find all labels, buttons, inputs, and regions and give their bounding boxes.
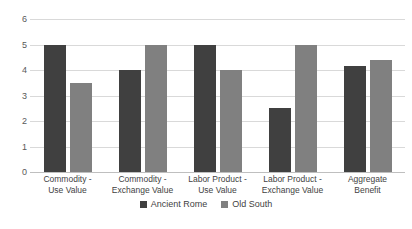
- bar: [145, 45, 167, 173]
- y-tick-label: 6: [3, 15, 27, 24]
- x-tick-label: AggregateBenefit: [330, 174, 405, 195]
- legend-label: Old South: [232, 200, 272, 209]
- x-axis-baseline: [30, 172, 405, 173]
- y-tick-label: 0: [3, 168, 27, 177]
- bar-group: [30, 19, 105, 172]
- x-tick-label: Labor Product -Exchange Value: [255, 174, 330, 195]
- bar: [70, 83, 92, 172]
- chart-legend: Ancient RomeOld South: [0, 200, 412, 209]
- legend-swatch-icon: [140, 201, 147, 208]
- x-tick-label-line: Aggregate: [331, 174, 404, 185]
- x-tick-label-line: Exchange Value: [106, 185, 179, 196]
- bar: [44, 45, 66, 173]
- x-tick-label-line: Benefit: [331, 185, 404, 196]
- bar: [370, 60, 392, 172]
- y-tick-label: 5: [3, 41, 27, 50]
- y-tick-label: 1: [3, 143, 27, 152]
- x-axis: Commodity -Use ValueCommodity -Exchange …: [30, 174, 405, 195]
- legend-item[interactable]: Old South: [221, 200, 272, 209]
- x-tick-label: Commodity -Exchange Value: [105, 174, 180, 195]
- legend-swatch-icon: [221, 201, 228, 208]
- x-tick-label-line: Use Value: [31, 185, 104, 196]
- x-tick-label-line: Use Value: [181, 185, 254, 196]
- bar-group: [180, 19, 255, 172]
- x-tick-label: Commodity -Use Value: [30, 174, 105, 195]
- bar-group: [330, 19, 405, 172]
- x-tick-label-line: Labor Product -: [181, 174, 254, 185]
- legend-label: Ancient Rome: [151, 200, 208, 209]
- bar: [220, 70, 242, 172]
- bar: [119, 70, 141, 172]
- y-tick-label: 2: [3, 117, 27, 126]
- bar-group: [255, 19, 330, 172]
- y-tick-label: 3: [3, 92, 27, 101]
- x-tick-label-line: Commodity -: [106, 174, 179, 185]
- bar: [194, 45, 216, 173]
- bars-layer: [30, 19, 405, 172]
- bar-chart: 6543210 Commodity -Use ValueCommodity -E…: [0, 0, 412, 229]
- x-tick-label-line: Labor Product -: [256, 174, 329, 185]
- legend-item[interactable]: Ancient Rome: [140, 200, 208, 209]
- y-axis: 6543210: [0, 19, 27, 172]
- x-tick-label: Labor Product -Use Value: [180, 174, 255, 195]
- bar: [295, 45, 317, 173]
- bar: [269, 108, 291, 172]
- y-tick-label: 4: [3, 66, 27, 75]
- x-tick-label-line: Exchange Value: [256, 185, 329, 196]
- x-tick-label-line: Commodity -: [31, 174, 104, 185]
- bar-group: [105, 19, 180, 172]
- bar: [344, 66, 366, 172]
